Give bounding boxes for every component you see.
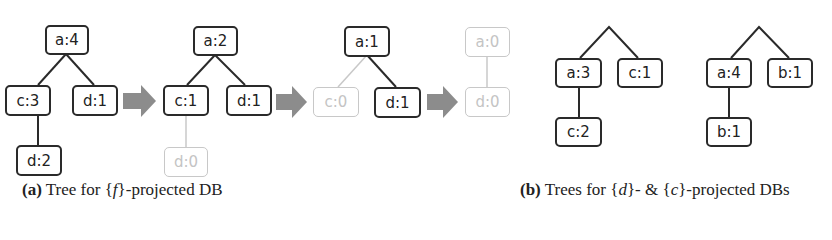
tree-node: a:4 — [706, 58, 752, 88]
caption-b: (b) Trees for {d}- & {c}-projected DBs — [520, 180, 790, 200]
caption-var: d — [618, 180, 627, 199]
caption-a: (a) Tree for {f}-projected DB — [22, 180, 223, 200]
tree-node: b:1 — [706, 117, 752, 147]
tree-node: b:1 — [767, 58, 813, 88]
caption-label: (b) — [520, 180, 541, 199]
caption-brace: { — [105, 180, 113, 199]
caption-brace: { — [662, 180, 670, 199]
arrow-right-icon — [276, 86, 307, 118]
caption-text: -projected DB — [126, 180, 223, 199]
tree-node-faded: d:0 — [164, 147, 208, 177]
tree-node: c:1 — [163, 85, 209, 116]
tree-node-faded: a:0 — [465, 27, 510, 57]
tree-node: a:3 — [555, 58, 602, 88]
tree-node-faded: d:0 — [465, 87, 510, 117]
caption-text: Tree for — [46, 180, 105, 199]
tree-node: c:3 — [5, 85, 51, 116]
tree-node: d:1 — [72, 85, 118, 116]
tree-node: d:2 — [16, 145, 62, 176]
caption-label: (a) — [22, 180, 42, 199]
arrow-right-icon — [427, 86, 458, 118]
caption-text: -projected DBs — [686, 180, 789, 199]
tree-node: d:1 — [374, 87, 421, 118]
caption-brace: } — [118, 180, 126, 199]
tree-node-faded: c:0 — [313, 87, 359, 117]
caption-text: Trees for — [545, 180, 610, 199]
caption-brace: } — [627, 180, 635, 199]
tree3-edges — [338, 55, 396, 87]
arrow-right-icon — [123, 85, 156, 117]
tree-node: c:1 — [617, 58, 663, 88]
tree-node: d:1 — [226, 85, 272, 116]
caption-text: - & — [635, 180, 662, 199]
tree-node: a:2 — [193, 26, 238, 56]
tree-node: a:1 — [344, 26, 390, 57]
tree-node: a:4 — [45, 25, 89, 55]
tree-node: c:2 — [555, 117, 602, 147]
